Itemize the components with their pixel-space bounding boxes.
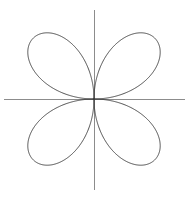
axes-group: [4, 10, 185, 190]
rose-curve-canvas: [0, 0, 189, 197]
petal-lower-right: [28, 99, 94, 165]
petal-lower-left: [28, 33, 94, 99]
rose-curve-figure: [0, 0, 189, 197]
petal-upper-left: [94, 33, 160, 99]
petal-upper-right: [94, 99, 160, 165]
